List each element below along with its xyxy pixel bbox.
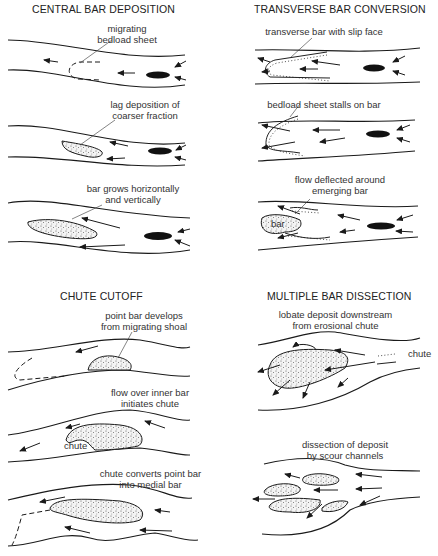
label-line: lag deposition of	[105, 100, 185, 111]
inline-label-chute: chute	[64, 441, 87, 452]
central-bar-stage-2	[8, 120, 186, 166]
panel-title-chute-cutoff: CHUTE CUTOFF	[60, 290, 143, 302]
label-lag-deposition: lag deposition of coarser fraction	[105, 100, 185, 121]
label-line: and vertically	[83, 195, 183, 206]
label-lobate-deposit: lobate deposit downstream from erosional…	[278, 310, 393, 331]
transverse-bar-stage-2	[258, 104, 415, 161]
label-line: emerging bar	[290, 186, 390, 197]
label-line: transverse bar with slip face	[264, 27, 384, 38]
label-line: into medial bar	[98, 480, 203, 491]
multiple-bar-stage-2	[253, 458, 420, 535]
label-line: point bar develops	[98, 311, 190, 322]
label-line: lobate deposit downstream	[278, 310, 393, 321]
inline-label-bar: bar	[271, 219, 285, 230]
label-line: initiates chute	[108, 399, 192, 410]
label-transverse-bar-slip-face: transverse bar with slip face	[264, 27, 384, 38]
chute-cutoff-stage-3	[8, 484, 198, 546]
panel-title-transverse-bar: TRANSVERSE BAR CONVERSION	[254, 3, 426, 15]
label-flow-over-inner-bar: flow over inner bar initiates chute	[108, 388, 192, 409]
label-line: flow over inner bar	[108, 388, 192, 399]
label-line: bar grows horizontally	[83, 184, 183, 195]
chute-cutoff-stage-1	[8, 332, 190, 390]
panel-title-central-bar: CENTRAL BAR DEPOSITION	[32, 3, 175, 15]
label-migrating-bedload-sheet: migrating bedload sheet	[92, 24, 162, 45]
label-chute-converts: chute converts point bar into medial bar	[98, 469, 203, 490]
label-dissection: dissection of deposit by scour channels	[300, 440, 390, 461]
label-line: bedload sheet	[92, 35, 162, 46]
label-line: dissection of deposit	[300, 440, 390, 451]
label-line: by scour channels	[300, 451, 390, 462]
inline-label-chute-2: chute	[408, 349, 431, 360]
panel-title-multiple-bar: MULTIPLE BAR DISSECTION	[267, 290, 411, 302]
diagram-canvas	[0, 0, 438, 556]
label-line: chute converts point bar	[98, 469, 203, 480]
label-point-bar-develops: point bar develops from migrating shoal	[98, 311, 190, 332]
label-bedload-stalls: bedload sheet stalls on bar	[264, 100, 384, 111]
label-line: flow deflected around	[290, 175, 390, 186]
transverse-bar-stage-1	[255, 38, 420, 84]
label-line: coarser fraction	[105, 111, 185, 122]
label-line: migrating	[92, 24, 162, 35]
label-line: bedload sheet stalls on bar	[264, 100, 384, 111]
multiple-bar-stage-1	[258, 332, 420, 410]
label-flow-deflected: flow deflected around emerging bar	[290, 175, 390, 196]
chute-cutoff-stage-2	[8, 410, 190, 462]
label-bar-grows: bar grows horizontally and vertically	[83, 184, 183, 205]
central-bar-stage-1	[8, 40, 186, 87]
label-line: from migrating shoal	[98, 322, 190, 333]
central-bar-stage-3	[8, 201, 190, 253]
label-line: from erosional chute	[278, 321, 393, 332]
